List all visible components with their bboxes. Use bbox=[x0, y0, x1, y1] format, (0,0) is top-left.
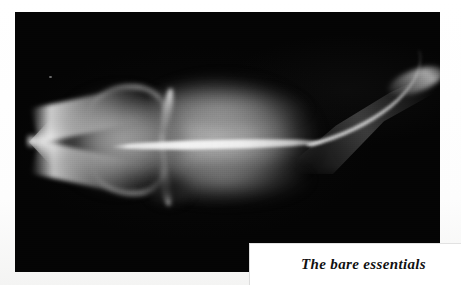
page-canvas: The bare essentials bbox=[0, 0, 461, 285]
specimen-organ-shadow bbox=[141, 170, 197, 210]
caption-text: The bare essentials bbox=[301, 257, 426, 272]
radiograph-plate bbox=[15, 12, 440, 272]
caption-box: The bare essentials bbox=[249, 243, 461, 285]
fish-radiograph-specimen bbox=[15, 12, 440, 272]
film-dust-speck bbox=[49, 76, 52, 78]
